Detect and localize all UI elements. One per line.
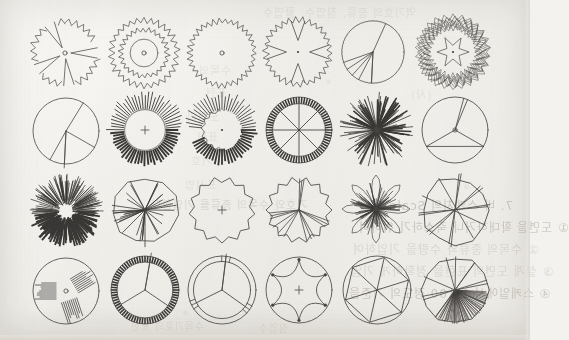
tree-symbol-hexagon-in-circle-six-spokes [337, 250, 417, 330]
tree-symbol-scalloped-polygon-plus [183, 171, 261, 249]
tree-symbol-double-ring-three-segment [182, 250, 262, 330]
tree-symbol-polygon-crown-dense-spokes [105, 170, 185, 250]
tree-symbol-fine-serrated-crown [184, 15, 260, 91]
tree-symbol-wavy-star-inside-circle [260, 251, 338, 329]
tree-symbol-circle-three-comb-tufts [27, 252, 105, 330]
tree-symbol-scalloped-crown-wedge-gaps [260, 171, 338, 249]
tree-symbol-dense-zigzag-wreath-crown [412, 11, 494, 93]
tree-symbol-hatched-wheel-eight-spokes [260, 91, 338, 169]
tree-symbol-polygon-crown-half-hatched [414, 249, 496, 331]
tree-symbol-fine-needle-burst-crown [25, 170, 107, 252]
tree-symbol-plain-circle-three-wedges [336, 15, 410, 89]
tree-symbol-double-ring-jagged-crown [105, 14, 183, 92]
page-bottom-edge [0, 335, 530, 340]
page-right-edge [526, 0, 530, 340]
tree-symbol-lobed-star-crown [260, 14, 336, 90]
tree-symbol-plain-circle-three-branch [27, 92, 105, 170]
tree-symbol-tick-ring-crown-plus [105, 90, 185, 170]
tree-symbol-circle-three-spoke-outline [416, 91, 494, 169]
tree-symbol-spiky-crown-with-radial-gaps [27, 15, 103, 91]
tree-symbol-polygon-crown-crossing-lines [414, 169, 496, 251]
tree-symbol-broken-tick-ring-crown [182, 90, 262, 170]
tree-symbol-dense-petal-starburst [336, 169, 416, 249]
tree-symbol-radial-burst-starburst [335, 88, 419, 172]
tree-symbol-hatched-rim-three-segment [105, 250, 185, 330]
